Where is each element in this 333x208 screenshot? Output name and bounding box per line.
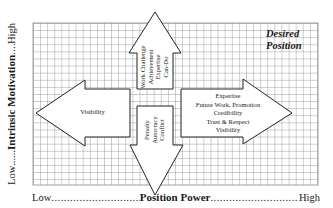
right-text-line: Credibility	[188, 109, 268, 118]
y-axis-dots-left: ......	[6, 150, 17, 166]
y-axis-title: Intrinsic Motivation	[5, 55, 17, 150]
x-axis-dots-right: ........................................…	[210, 192, 299, 203]
x-axis-high: High	[299, 192, 320, 203]
x-axis-low: Low	[32, 192, 51, 203]
down-text-line: Conflict	[158, 106, 166, 154]
y-axis-dots-right: ......	[6, 44, 17, 55]
x-axis-title: Position Power	[140, 191, 211, 203]
left-text-line: Visibility	[70, 108, 115, 117]
motivation-power-diagram: Low ...... Intrinsic Motivation ...... H…	[0, 0, 333, 208]
right-text-line: Expertise	[188, 92, 268, 101]
up-arrow-text: Work Challenge Achievement Expertise Can…	[139, 33, 171, 101]
y-axis-high: High	[6, 23, 17, 44]
down-arrow-text: Penalty Autocracy Conflict	[143, 106, 167, 154]
right-text-line: Future Work, Promotion	[188, 101, 268, 110]
up-text-line: Work Challenge	[139, 33, 147, 101]
right-arrow-text: Expertise Future Work, Promotion Credibi…	[188, 92, 268, 135]
desired-line-1: Desired	[266, 28, 314, 40]
x-axis-dots-left: ........................................…	[51, 192, 140, 203]
right-text-line: Visibility	[188, 126, 268, 135]
x-axis-label: Low ....................................…	[32, 190, 320, 204]
down-text-line: Penalty	[143, 106, 151, 154]
desired-position-label: Desired Position	[266, 28, 314, 52]
right-text-line: Trust & Respect	[188, 118, 268, 127]
up-text-line: Achievement	[147, 33, 155, 101]
up-text-line: Expertise	[154, 33, 162, 101]
up-text-line: Can-Do	[162, 33, 170, 101]
down-text-line: Autocracy	[151, 106, 159, 154]
y-axis-label: Low ...... Intrinsic Motivation ...... H…	[3, 23, 19, 185]
desired-line-2: Position	[266, 40, 314, 52]
left-arrow-text: Visibility	[70, 108, 115, 117]
y-axis-low: Low	[6, 166, 17, 185]
